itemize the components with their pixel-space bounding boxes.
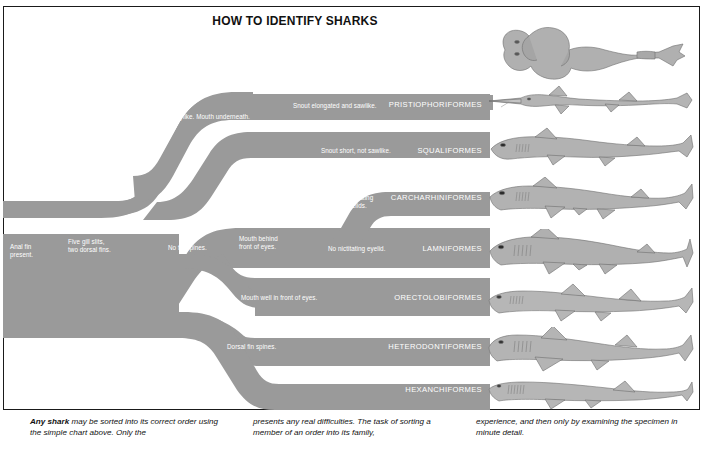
mackerel-shark-illustration	[487, 229, 695, 277]
requiem-shark-illustration	[487, 177, 695, 223]
dogfish-shark-illustration	[487, 127, 695, 171]
angel-shark-illustration	[487, 22, 693, 82]
order-label-orectolobiformes: ORECTOLOBIFORMES	[300, 293, 482, 302]
caption-column-1: Any shark may be sorted into its correct…	[30, 416, 230, 438]
flow-label-anal-fin-present: Anal fin present.	[10, 243, 33, 259]
shark-identification-figure: HOW TO IDENTIFY SHARKS	[0, 0, 703, 457]
flow-label-body-flattened: Body flattened, raylike. Mouth at front.	[163, 54, 271, 62]
flow-label-dorsal-fin-spines: Dorsal fin spines.	[227, 343, 276, 351]
order-label-heterodontiformes: HETERODONTIFORMES	[300, 342, 482, 351]
flow-label-no-fin-spines: No fin spines.	[168, 244, 207, 252]
caption-column-3: experience, and then only by examining t…	[476, 416, 691, 438]
order-label-carcharhiniformes: CARCHARHINIFORMES	[300, 193, 482, 202]
order-label-hexanchiformes: HEXANCHIFORMES	[300, 385, 482, 394]
shark-illustration-column	[487, 7, 699, 409]
order-label-squaliformes: SQUALIFORMES	[300, 146, 482, 155]
flow-label-six-or-seven-gill-slits: Six or seven gill slits, one dorsal fin.	[124, 386, 226, 394]
flow-label-mouth-behind-eyes: Mouth behind front of eyes.	[239, 235, 278, 251]
caption-lead-in: Any shark	[30, 417, 69, 426]
cow-shark-illustration	[487, 375, 695, 411]
flow-label-no-anal-fin: No anal fin.	[10, 183, 42, 191]
carpet-shark-illustration	[487, 282, 695, 324]
caption-block: Any shark may be sorted into its correct…	[3, 416, 700, 456]
sawshark-illustration	[487, 83, 695, 119]
bullhead-shark-illustration	[487, 327, 695, 373]
order-label-pristiophoriformes: PRISTIOPHORIFORMES	[300, 100, 482, 109]
caption-column-2: presents any real difficulties. The task…	[253, 416, 458, 438]
flow-label-five-gill-slits: Five gill slits, two dorsal fins.	[68, 238, 111, 254]
flow-label-body-not-raylike: Body not raylike. Mouth underneath.	[147, 113, 250, 121]
order-label-squatiniformes: SQUATINIFORMES	[300, 53, 482, 62]
order-label-lamniformes: LAMNIFORMES	[300, 244, 482, 253]
